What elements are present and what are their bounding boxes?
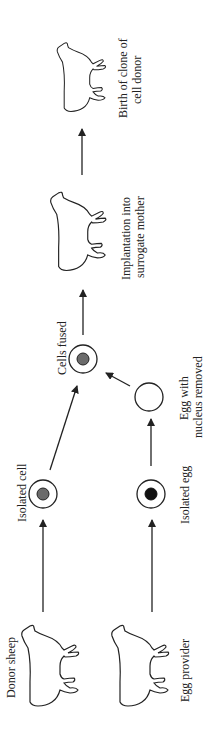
implantation-node: Implantation into surrogate mother bbox=[51, 192, 147, 280]
arrow-cell-to-fused bbox=[50, 386, 77, 470]
isolated-egg-label: Isolated egg bbox=[178, 466, 192, 524]
arrow-egg-removed-to-fused bbox=[106, 373, 130, 386]
egg-provider-label: Egg provider bbox=[178, 639, 192, 702]
egg-removed-label-line1: Egg with bbox=[177, 376, 191, 420]
egg-nucleus-removed-node: Egg with nucleus removed bbox=[135, 356, 205, 438]
sheep-icon bbox=[22, 625, 79, 706]
isolated-cell-label: Isolated cell bbox=[15, 463, 29, 522]
birth-clone-label-line1: Birth of clone of bbox=[116, 38, 130, 118]
isolated-egg-node: Isolated egg bbox=[137, 466, 192, 524]
isolated-cell-node: Isolated cell bbox=[15, 463, 57, 522]
birth-clone-node: Birth of clone of cell donor bbox=[57, 38, 144, 118]
cells-fused-node: Cells fused bbox=[55, 321, 97, 375]
donor-sheep-node: Donor sheep bbox=[4, 625, 79, 706]
sheep-icon bbox=[51, 192, 106, 270]
sheep-icon bbox=[57, 43, 105, 112]
donor-sheep-label: Donor sheep bbox=[4, 637, 18, 698]
cloning-diagram: Birth of clone of cell donor Implantatio… bbox=[0, 0, 219, 742]
birth-clone-label-line2: cell donor bbox=[130, 56, 144, 104]
implantation-label-line1: Implantation into bbox=[119, 197, 133, 280]
egg-removed-label-line2: nucleus removed bbox=[191, 356, 205, 438]
implantation-label-line2: surrogate mother bbox=[133, 196, 147, 278]
egg-provider-node: Egg provider bbox=[112, 625, 192, 706]
empty-egg-icon bbox=[135, 383, 163, 411]
sheep-icon bbox=[112, 625, 169, 706]
cells-fused-label: Cells fused bbox=[55, 321, 69, 375]
